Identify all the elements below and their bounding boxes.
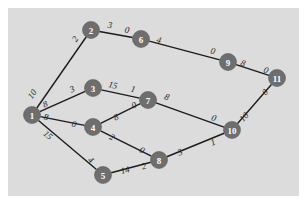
edge-weight-4-7-tail: 8 bbox=[112, 111, 121, 122]
edge-weight-1-2-tail: 10 bbox=[25, 87, 39, 101]
edge-weight-1-3-tail: 8 bbox=[41, 98, 50, 109]
nodes-layer: 1234567891011 bbox=[24, 22, 286, 184]
edge-weight-1-5-tail: 15 bbox=[41, 128, 55, 142]
diagram-canvas: 102304080831518080801542014231100 123456… bbox=[0, 0, 307, 209]
node-10[interactable]: 10 bbox=[224, 122, 241, 139]
node-label-9: 9 bbox=[226, 58, 231, 68]
edge-weight-5-8-tail: 14 bbox=[119, 164, 131, 176]
node-label-11: 11 bbox=[273, 74, 282, 84]
edge-weight-9-11-head: 0 bbox=[262, 65, 270, 76]
edge-weight-5-8-head: 2 bbox=[141, 160, 148, 171]
node-label-7: 7 bbox=[146, 96, 151, 106]
node-label-3: 3 bbox=[91, 84, 96, 94]
edge-weight-3-7-tail: 15 bbox=[108, 79, 119, 91]
node-label-1: 1 bbox=[30, 111, 35, 121]
node-1[interactable]: 1 bbox=[24, 107, 41, 124]
edge-weight-2-6-tail: 3 bbox=[106, 20, 114, 31]
node-label-2: 2 bbox=[89, 26, 94, 36]
node-11[interactable]: 11 bbox=[269, 70, 286, 87]
edge-weight-1-3-head: 3 bbox=[67, 83, 77, 95]
edge-weight-6-9-head: 0 bbox=[210, 46, 217, 57]
network-graph: 102304080831518080801542014231100 123456… bbox=[0, 0, 307, 209]
edge-weight-4-8-tail: 2 bbox=[108, 132, 117, 143]
edge-weight-4-8-head: 0 bbox=[138, 145, 147, 156]
edge-weight-9-11-tail: 8 bbox=[239, 58, 247, 69]
node-label-10: 10 bbox=[228, 126, 238, 136]
node-7[interactable]: 7 bbox=[140, 92, 157, 109]
node-9[interactable]: 9 bbox=[220, 54, 237, 71]
node-6[interactable]: 6 bbox=[133, 31, 150, 48]
node-5[interactable]: 5 bbox=[95, 167, 112, 184]
node-3[interactable]: 3 bbox=[85, 80, 102, 97]
edge-weight-7-10-head: 0 bbox=[210, 113, 218, 124]
node-label-6: 6 bbox=[139, 35, 144, 45]
node-label-5: 5 bbox=[101, 171, 106, 181]
edge-4-8 bbox=[101, 131, 152, 156]
edge-weight-1-4-tail: 8 bbox=[43, 112, 50, 123]
edge-weight-8-10-head: 1 bbox=[209, 137, 217, 148]
edge-weight-1-5-head: 4 bbox=[86, 155, 96, 166]
node-label-8: 8 bbox=[157, 156, 162, 166]
node-label-4: 4 bbox=[91, 123, 96, 133]
node-2[interactable]: 2 bbox=[83, 22, 100, 39]
edge-1-2 bbox=[37, 37, 86, 108]
node-4[interactable]: 4 bbox=[85, 119, 102, 136]
edge-weight-7-10-tail: 8 bbox=[163, 92, 171, 103]
edge-weight-3-7-head: 1 bbox=[130, 84, 137, 95]
edge-weight-1-2-head: 2 bbox=[70, 34, 81, 44]
edge-weight-2-6-head: 0 bbox=[124, 25, 131, 36]
node-8[interactable]: 8 bbox=[151, 152, 168, 169]
